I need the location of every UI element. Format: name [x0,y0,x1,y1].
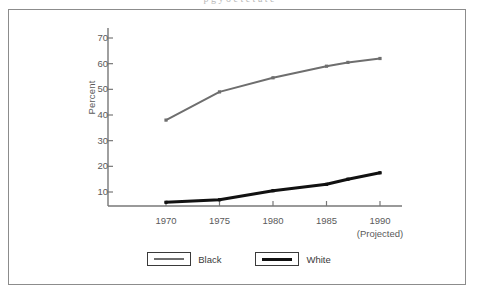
legend-label: Black [198,254,221,265]
data-point-white [164,201,167,204]
legend-swatch-white [255,252,299,266]
line-chart-plot [0,0,478,293]
series-line-black [166,59,380,121]
y-tick-label: 60 [82,58,108,69]
y-tick-label: 50 [82,83,108,94]
series-line-white [166,173,380,203]
data-point-white [378,171,381,174]
data-point-white [325,183,328,186]
y-axis-ticks: 10203040506070 [82,0,108,293]
legend-line-icon [262,258,292,261]
data-point-black [346,61,349,64]
legend-label: White [306,254,330,265]
data-point-black [325,65,328,68]
data-point-white [271,189,274,192]
x-tick-label: 1985 [305,215,349,226]
data-point-black [378,57,381,60]
y-tick-label: 40 [82,109,108,120]
y-tick-label: 70 [82,32,108,43]
y-tick-label: 10 [82,186,108,197]
legend-item-white[interactable]: White [255,252,330,266]
x-tick-label: 1975 [198,215,242,226]
legend-swatch-black [147,252,191,266]
figure-page: p g y o e t e t a t e Percent 1020304050… [0,0,478,293]
y-tick-label: 30 [82,135,108,146]
legend-item-black[interactable]: Black [147,252,221,266]
data-point-white [346,178,349,181]
y-tick-label: 20 [82,160,108,171]
legend-line-icon [154,258,184,260]
data-point-black [271,76,274,79]
projected-note: (Projected) [340,228,420,239]
data-point-black [218,90,221,93]
x-tick-label: 1990 [358,215,402,226]
x-tick-label: 1970 [144,215,188,226]
data-point-white [218,198,221,201]
data-point-black [164,119,167,122]
x-tick-label: 1980 [251,215,295,226]
chart-legend: BlackWhite [0,252,478,266]
